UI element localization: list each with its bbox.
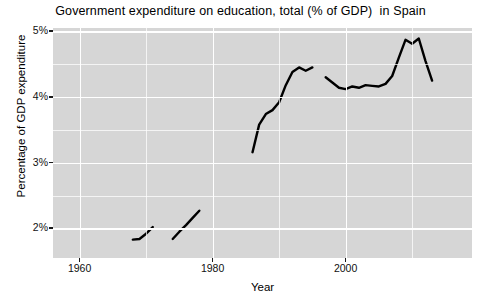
y-tick-mark-3	[49, 162, 53, 164]
x-tick-mark-1960	[79, 258, 81, 262]
y-tick-mark-5	[49, 30, 53, 32]
x-tick-mark-2000	[345, 258, 347, 262]
data-line-segment-1986-1995	[253, 67, 313, 152]
x-tick-label-1960: 1960	[60, 262, 100, 274]
gridline-x-minor-2010	[412, 28, 413, 258]
gridline-y-4	[53, 97, 472, 98]
data-line-layer	[53, 28, 472, 258]
x-tick-label-1980: 1980	[193, 262, 233, 274]
gridline-x-2000	[346, 28, 347, 258]
y-axis-title: Percentage of GDP expenditure	[15, 1, 27, 231]
chart-title: Government expenditure on education, tot…	[0, 4, 481, 18]
x-tick-label-2000: 2000	[326, 262, 366, 274]
y-tick-mark-4	[49, 96, 53, 98]
gridline-x-1980	[213, 28, 214, 258]
x-axis-title: Year	[53, 281, 472, 293]
data-line-segment-1974-1978	[173, 211, 200, 239]
gridline-x-minor-1970	[146, 28, 147, 258]
chart-figure: Government expenditure on education, tot…	[0, 0, 481, 304]
gridline-y-2	[53, 228, 472, 229]
plot-panel	[53, 28, 472, 258]
gridline-y-minor-5	[53, 31, 472, 32]
gridline-x-minor-1990	[279, 28, 280, 258]
gridline-y-minor-3.5	[53, 130, 472, 131]
gridline-y-minor-2.5	[53, 196, 472, 197]
gridline-y-3	[53, 163, 472, 164]
x-tick-mark-1980	[212, 258, 214, 262]
gridline-y-minor-4.5	[53, 64, 472, 65]
gridline-x-1960	[80, 28, 81, 258]
y-tick-mark-2	[49, 227, 53, 229]
